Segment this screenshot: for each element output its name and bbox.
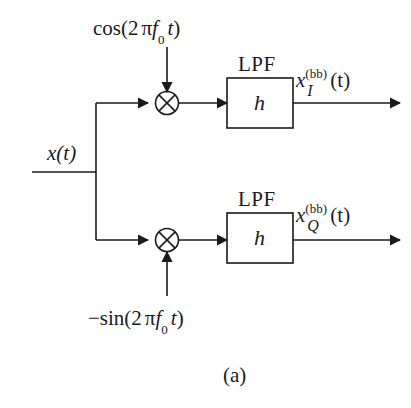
output-q-label: x(bb)Q(t) xyxy=(296,205,350,226)
figure-caption: (a) xyxy=(223,365,246,386)
output-i-subscript: I xyxy=(307,83,312,99)
cos-suffix: ) xyxy=(173,16,180,40)
sin-prefix: −sin(2 xyxy=(88,306,142,330)
sin-freq-sub: 0 xyxy=(161,322,168,337)
figure-quadrature-downconverter: x(t) cos(2πf0t) −sin(2πf0t) LPF LPF h h … xyxy=(0,0,411,408)
input-signal-label: x(t) xyxy=(47,143,76,164)
output-i-base: x xyxy=(296,68,305,92)
lpf-i-impulse-response: h xyxy=(254,92,265,114)
cos-freq-sub: 0 xyxy=(158,32,165,47)
output-i-arg: (t) xyxy=(330,70,350,91)
output-q-base: x xyxy=(296,203,305,227)
oscillator-cos-label: cos(2πf0t) xyxy=(93,18,180,39)
output-i-label: x(bb)I(t) xyxy=(296,70,350,91)
lpf-q-impulse-response: h xyxy=(254,227,265,249)
output-i-superscript: (bb) xyxy=(305,67,327,80)
input-signal-arg: (t) xyxy=(56,141,76,165)
lpf-i-title: LPF xyxy=(238,54,276,75)
output-q-subscript: Q xyxy=(307,218,319,234)
lpf-q-title: LPF xyxy=(238,189,276,210)
oscillator-sin-label: −sin(2πf0t) xyxy=(88,308,184,329)
sin-pi: π xyxy=(145,306,156,330)
sin-suffix: ) xyxy=(177,306,184,330)
output-q-arg: (t) xyxy=(330,205,350,226)
output-q-superscript: (bb) xyxy=(305,202,327,215)
cos-prefix: cos(2 xyxy=(93,16,139,40)
input-signal-base: x xyxy=(47,141,56,165)
cos-pi: π xyxy=(142,16,153,40)
